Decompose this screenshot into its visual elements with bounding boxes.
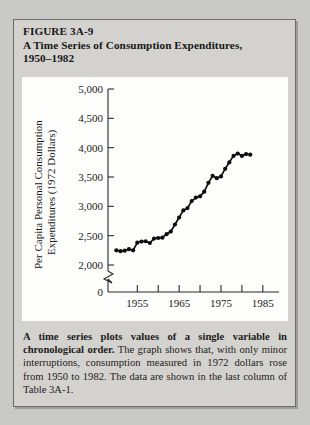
- figure-title-line-1: A Time Series of Consumption Expenditure…: [23, 39, 289, 53]
- figure-box: FIGURE 3A-9 A Time Series of Consumption…: [13, 19, 296, 407]
- series-data-point: [173, 222, 177, 226]
- series-data-point: [127, 247, 131, 251]
- series-data-point: [223, 167, 227, 171]
- series-data-point: [231, 154, 235, 158]
- series-data-point: [198, 194, 202, 198]
- series-data-point: [236, 151, 240, 155]
- x-tick-label: 1965: [168, 297, 191, 309]
- series-data-point: [144, 239, 148, 243]
- x-tick-label: 1975: [210, 297, 233, 309]
- series-data-point: [152, 237, 156, 241]
- y-tick-label: 3,000: [78, 200, 103, 212]
- series-data-point: [248, 153, 252, 157]
- series-data-point: [244, 152, 248, 156]
- page-background: FIGURE 3A-9 A Time Series of Consumption…: [0, 0, 310, 425]
- y-axis-title-line-1: Per Capita Personal Consumption: [32, 120, 44, 269]
- series-data-point: [114, 248, 118, 252]
- series-data-point: [131, 248, 135, 252]
- series-data-point: [219, 174, 223, 178]
- series-data-point: [227, 160, 231, 164]
- y-tick-label: 4,000: [78, 142, 103, 154]
- series-data-point: [156, 236, 160, 240]
- series-data-point: [202, 190, 206, 194]
- series-line: [116, 154, 250, 252]
- series-data-point: [206, 181, 210, 185]
- y-tick-label: 5,000: [78, 83, 103, 95]
- y-tick-label: 2,500: [78, 230, 103, 242]
- y-tick-label: 4,500: [78, 112, 103, 124]
- series-data-point: [194, 195, 198, 199]
- series-data-point: [215, 176, 219, 180]
- series-data-point: [160, 236, 164, 240]
- series-data-point: [118, 249, 122, 253]
- y-axis-title-line-2: Expenditures (1972 Dollars): [45, 129, 58, 255]
- series-data-point: [190, 199, 194, 203]
- figure-title-line-2: 1950–1982: [23, 52, 289, 66]
- series-data-point: [240, 154, 244, 158]
- series-data-point: [135, 241, 139, 245]
- series-data-point: [164, 232, 168, 236]
- figure-title-block: FIGURE 3A-9 A Time Series of Consumption…: [23, 25, 289, 66]
- series-data-point: [185, 206, 189, 210]
- series-data-point: [169, 229, 173, 233]
- series-data-point: [211, 174, 215, 178]
- chart-series: [114, 151, 252, 253]
- y-axis-title: Per Capita Personal Consumption Expendit…: [32, 120, 58, 269]
- chart-panel: Per Capita Personal Consumption Expendit…: [22, 77, 288, 321]
- chart-axes: [104, 89, 279, 292]
- y-origin-label: 0: [98, 286, 104, 298]
- series-data-point: [148, 241, 152, 245]
- time-series-chart: Per Capita Personal Consumption Expendit…: [22, 77, 288, 321]
- series-data-point: [123, 249, 127, 253]
- series-data-point: [177, 215, 181, 219]
- y-tick-label: 2,000: [78, 259, 103, 271]
- series-data-point: [139, 239, 143, 243]
- x-tick-label: 1985: [252, 297, 275, 309]
- series-data-point: [181, 208, 185, 212]
- x-tick-label: 1955: [126, 297, 149, 309]
- figure-caption: A time series plots values of a single v…: [23, 330, 287, 396]
- y-tick-label: 3,500: [78, 171, 103, 183]
- figure-label: FIGURE 3A-9: [23, 25, 289, 39]
